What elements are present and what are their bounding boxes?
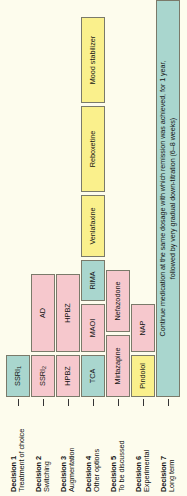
decision-6-subtitle: Experimental [143,408,151,492]
table-row: Decision 7 Long term Continue medication… [156,0,180,496]
decision-7-subtitle: Long term [168,408,176,492]
option-box-hpbz-a[interactable]: HPBZ [56,355,80,397]
decision-1-options: SSRI1 [6,0,30,397]
option-box-pindolol[interactable]: Pindolol [131,355,155,397]
decision-3-options: HPBZ HPBZ [56,0,80,397]
decision-1-label: Decision 1 Treatment of choice [6,408,30,496]
decision-4-label: Decision 4 Other options [81,408,105,496]
option-box-long-term-maintenance[interactable]: Continue medication at the same dosage w… [156,0,180,397]
option-box-hpbz-b[interactable]: HPBZ [56,274,80,352]
decision-4-options: TCA MAOI RIMA Venlafaxine Reboxetine Moo… [81,0,105,397]
option-label: SSRI [14,369,22,386]
option-box-rima[interactable]: RIMA [81,260,105,301]
decision-5-options: Mirtazapine Nefazodone [106,0,130,397]
option-box-maoi[interactable]: MAOI [81,304,105,352]
decision-3-label: Decision 3 Augmentation [56,408,80,496]
decision-2-options: SSRI2 AD [31,0,55,397]
row-tick-icon [81,397,105,408]
option-subscript: 1 [16,366,22,369]
option-box-tca[interactable]: TCA [81,355,105,397]
table-row: Decision 1 Treatment of choice SSRI1 [6,0,30,496]
option-box-nap[interactable]: NAP [131,304,155,352]
decision-row-list: Decision 1 Treatment of choice SSRI1 Dec… [0,0,187,496]
decision-2-subtitle: Switching [43,408,51,492]
decision-4-subtitle: Other options [93,408,101,492]
option-box-nefazodone[interactable]: Nefazodone [106,270,130,332]
table-row: Decision 2 Switching SSRI2 AD [31,0,55,496]
option-box-mirtazapine[interactable]: Mirtazapine [106,335,130,397]
treatment-algorithm-figure: Decision 1 Treatment of choice SSRI1 Dec… [0,0,187,496]
table-row: Decision 6 Experimental Pindolol NAP [131,0,155,496]
option-box-ad[interactable]: AD [31,274,55,352]
option-subscript: 2 [41,366,47,369]
option-box-ssri2[interactable]: SSRI2 [31,355,55,397]
row-tick-icon [31,397,55,408]
table-row: Decision 3 Augmentation HPBZ HPBZ [56,0,80,496]
decision-7-label: Decision 7 Long term [156,408,180,496]
decision-5-subtitle: To be discussed [118,408,126,492]
decision-5-label: Decision 5 To be discussed [106,408,130,496]
row-tick-icon [106,397,130,408]
row-tick-icon [6,397,30,408]
row-tick-icon [56,397,80,408]
decision-2-label: Decision 2 Switching [31,408,55,496]
table-row: Decision 4 Other options TCA MAOI RIMA V… [81,0,105,496]
decision-7-options: Continue medication at the same dosage w… [156,0,180,397]
option-box-mood-stabilizer[interactable]: Mood stabilizer [81,17,105,103]
option-box-reboxetine[interactable]: Reboxetine [81,106,105,192]
row-tick-icon [156,397,180,408]
table-row: Decision 5 To be discussed Mirtazapine N… [106,0,130,496]
row-tick-icon [131,397,155,408]
decision-1-subtitle: Treatment of choice [18,408,26,492]
decision-6-options: Pindolol NAP [131,0,155,397]
decision-6-label: Decision 6 Experimental [131,408,155,496]
option-box-ssri1[interactable]: SSRI1 [6,355,30,397]
option-label: SSRI [39,369,47,386]
option-box-venlafaxine[interactable]: Venlafaxine [81,195,105,257]
decision-3-subtitle: Augmentation [68,408,76,492]
